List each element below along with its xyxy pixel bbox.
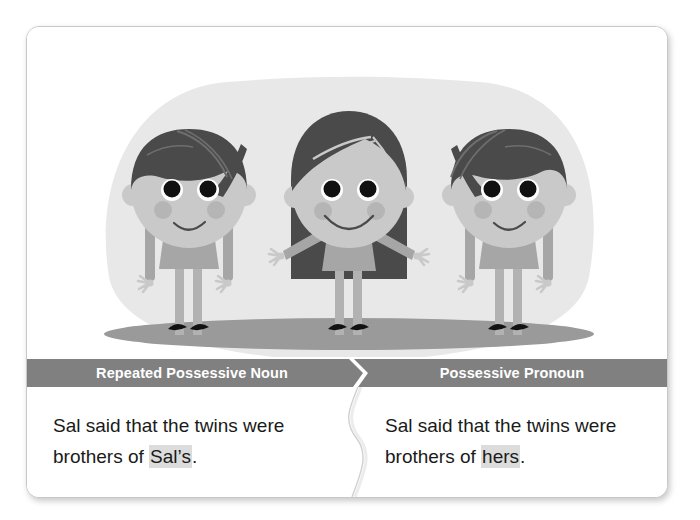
answer-panel-left: Sal said that the twins were brothers of… [27, 387, 363, 497]
middle-child-eye-right [360, 181, 377, 198]
left-child-eye-left [164, 181, 181, 198]
answer-panel-right: Sal said that the twins were brothers of… [363, 387, 667, 497]
illustration-area [27, 27, 667, 357]
left-child-eye-right [200, 181, 217, 198]
answer-left-line2-suffix: . [192, 446, 197, 467]
right-child-eye-left [484, 181, 501, 198]
answer-right-line1: Sal said that the twins were [385, 411, 649, 442]
answer-right-line2: brothers of hers. [385, 442, 649, 473]
answer-left-highlight: Sal’s [149, 445, 192, 468]
answer-right-line2-prefix: brothers of [385, 446, 481, 467]
screenshot-root: Repeated Possessive Noun Possessive Pron… [0, 0, 700, 520]
column-headers-bar: Repeated Possessive Noun Possessive Pron… [27, 359, 667, 387]
answer-right-line2-suffix: . [520, 446, 525, 467]
answer-left-line2-prefix: brothers of [53, 446, 149, 467]
middle-child-eye-left [324, 181, 341, 198]
right-child-eye-right [520, 181, 537, 198]
answer-panels: Sal said that the twins were brothers of… [27, 387, 667, 497]
answer-right-highlight: hers [481, 445, 520, 468]
column-header-repeated-possessive-noun: Repeated Possessive Noun [27, 359, 357, 387]
column-header-possessive-pronoun: Possessive Pronoun [357, 359, 667, 387]
answer-left-line1: Sal said that the twins were [53, 411, 341, 442]
three-children-illustration [27, 27, 667, 357]
answer-left-line2: brothers of Sal’s. [53, 442, 341, 473]
lesson-card: Repeated Possessive Noun Possessive Pron… [26, 26, 668, 498]
